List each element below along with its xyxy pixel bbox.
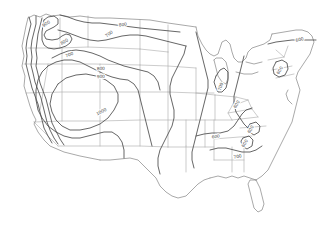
contour-labels: 9009008008007007008008007007008008009009…: [41, 19, 304, 160]
us-contour-map-figure: 9009008008007007008008007007008008009009…: [0, 0, 328, 233]
contour-label: 600: [247, 124, 255, 134]
contour-label: 700: [104, 29, 114, 38]
contour-label: 900: [97, 74, 106, 79]
contour-label: 800: [97, 66, 106, 72]
contour-label: 1000: [95, 107, 107, 116]
map-canvas: 9009008008007007008008007007008008009009…: [0, 0, 328, 233]
contour-label: 700: [217, 82, 224, 92]
contour-label: 600: [295, 36, 304, 43]
contour-label: 600: [275, 65, 284, 75]
contour-label: 900: [41, 19, 51, 28]
contour-lines: [26, 15, 316, 174]
contour-label: 700: [233, 153, 242, 160]
contour-label: 800: [119, 22, 128, 28]
